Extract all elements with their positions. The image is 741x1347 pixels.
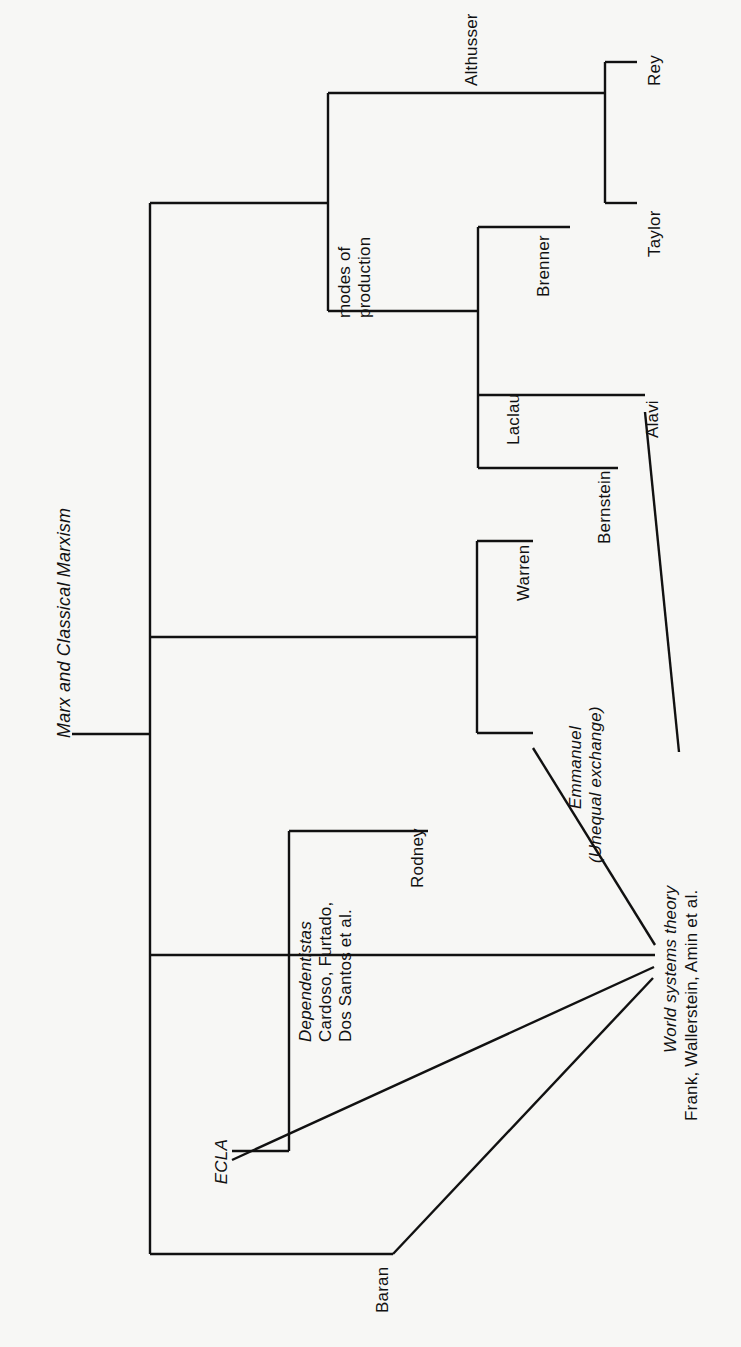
label-emmanuel-line1: Emmanuel <box>566 725 585 809</box>
label-ecla: ECLA <box>212 1139 231 1184</box>
link-alavi-to-world-systems <box>645 412 679 752</box>
label-taylor: Taylor <box>645 210 664 257</box>
label-root: Marx and Classical Marxism <box>54 508 74 738</box>
branch-dependentistas <box>150 831 428 1151</box>
branch-althusser-children <box>605 62 637 203</box>
label-rey: Rey <box>645 55 664 86</box>
figure-canvas: Marx and Classical Marxism modes of prod… <box>0 0 741 1347</box>
link-baran-to-world-systems <box>393 978 653 1254</box>
lineage-tree-svg: Marx and Classical Marxism modes of prod… <box>0 0 741 1347</box>
label-rodney: Rodney <box>408 828 427 888</box>
label-dependentistas-line1: Dependentistas <box>296 921 315 1042</box>
label-laclau: Laclau <box>504 394 523 445</box>
label-warren: Warren <box>514 545 533 601</box>
branch-warren-emmanuel <box>150 541 533 733</box>
label-alavi: Alavi <box>643 400 662 438</box>
label-dependentistas-line2: Cardoso, Furtado, <box>316 902 335 1042</box>
label-baran: Baran <box>373 1267 392 1313</box>
label-bernstein: Bernstein <box>595 470 614 544</box>
trunk-group <box>72 203 150 1254</box>
label-world-systems-theory-line1: World systems theory <box>661 884 680 1053</box>
label-modes-of-production-line2: production <box>355 237 374 318</box>
label-emmanuel-line2: (Unequal exchange) <box>586 706 605 863</box>
label-althusser: Althusser <box>462 13 481 86</box>
label-world-systems-theory-line2: Frank, Wallerstein, Amin et al. <box>682 890 701 1121</box>
label-modes-of-production-line1: modes of <box>335 246 354 318</box>
label-dependentistas-line3: Dos Santos et al. <box>336 909 355 1042</box>
label-brenner: Brenner <box>534 235 553 297</box>
